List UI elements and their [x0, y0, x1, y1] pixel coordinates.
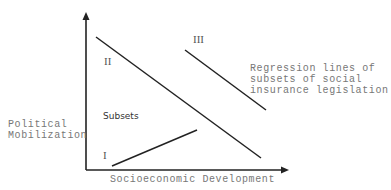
regression-line-I — [112, 130, 197, 166]
annotation-line3: insurance legislation — [250, 85, 389, 96]
regression-line-II — [96, 37, 261, 158]
x-axis-arrow-icon — [281, 167, 289, 174]
label-III: III — [193, 33, 204, 45]
regression-diagram: II III I Subsets Political Mobilization … — [0, 0, 391, 190]
y-axis-arrow-icon — [83, 12, 90, 20]
label-I: I — [103, 149, 107, 161]
annotation-line1: Regression lines of — [250, 63, 375, 74]
y-axis-label-line2: Mobilization — [8, 130, 87, 141]
label-II: II — [104, 55, 112, 67]
y-axis-label-line1: Political — [8, 119, 67, 130]
x-axis-label: Socioeconomic Development — [110, 174, 275, 185]
subsets-label: Subsets — [103, 111, 139, 121]
annotation-line2: subsets of social — [250, 74, 362, 85]
